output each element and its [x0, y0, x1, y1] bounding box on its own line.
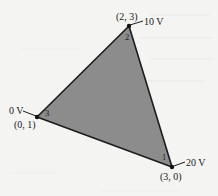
diagram-canvas: (2, 3) 10 V 2 0 V (0, 1) 3 20 V (3, 0) 1 — [0, 0, 218, 196]
node-3-coord-label: (0, 1) — [14, 119, 36, 131]
node-2-coord-label: (2, 3) — [116, 11, 138, 23]
node-3-potential-label: 0 V — [9, 105, 24, 116]
node-2-number-label: 2 — [125, 32, 129, 42]
node-1-dot — [170, 165, 174, 169]
node-1-potential-label: 20 V — [186, 157, 206, 168]
node-3-leader-line — [23, 111, 36, 116]
node-1-leader-line — [174, 162, 185, 166]
triangle-element-figure: (2, 3) 10 V 2 0 V (0, 1) 3 20 V (3, 0) 1 — [0, 0, 218, 196]
node-3-number-label: 3 — [45, 108, 49, 118]
node-1-number-label: 1 — [162, 152, 166, 162]
triangle-element — [37, 26, 172, 167]
node-2-potential-label: 10 V — [144, 16, 164, 27]
node-1-coord-label: (3, 0) — [160, 171, 182, 183]
